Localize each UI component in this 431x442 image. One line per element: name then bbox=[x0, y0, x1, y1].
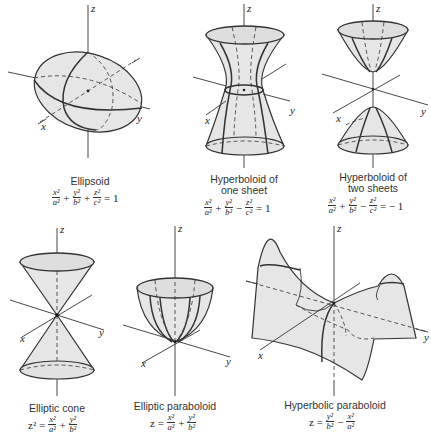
hyperboloid-one-sheet-diagram: z x y bbox=[193, 2, 295, 168]
svg-text:z: z bbox=[375, 2, 381, 14]
svg-text:x: x bbox=[257, 349, 263, 361]
svg-text:z: z bbox=[246, 2, 252, 14]
svg-text:x: x bbox=[19, 332, 25, 344]
x-axis-label: x bbox=[40, 120, 46, 132]
elliptic-cone-equation: z² = x²a² + y²b² bbox=[27, 415, 77, 434]
svg-text:y: y bbox=[98, 326, 104, 338]
svg-text:z: z bbox=[59, 223, 65, 235]
z-axis-label: z bbox=[90, 2, 96, 14]
svg-text:y: y bbox=[289, 104, 295, 116]
svg-text:x: x bbox=[335, 112, 341, 124]
svg-text:y: y bbox=[423, 331, 429, 343]
elliptic-paraboloid-diagram: z x y bbox=[123, 222, 231, 396]
svg-text:x: x bbox=[140, 357, 146, 369]
elliptic-cone-diagram: z x y bbox=[10, 223, 104, 396]
elliptic-paraboloid-equation: z = x²a² + y²b² bbox=[149, 413, 196, 432]
hyperboloid-one-sheet-equation: x²a² + y²b² − z²c² = 1 bbox=[204, 198, 271, 217]
hyperboloid-two-sheets-equation: x²a² + y²b² − z²c² = − 1 bbox=[328, 196, 404, 215]
svg-text:z: z bbox=[336, 222, 342, 234]
svg-text:z: z bbox=[177, 222, 183, 234]
elliptic-cone-caption: Elliptic cone bbox=[12, 403, 102, 414]
svg-text:y: y bbox=[225, 355, 231, 367]
hyperbolic-paraboloid-caption: Hyperbolic paraboloid bbox=[280, 400, 390, 411]
elliptic-paraboloid-caption: Elliptic paraboloid bbox=[125, 401, 225, 412]
ellipsoid-equation: x²a² + y²b² + z²c² = 1 bbox=[52, 188, 119, 207]
hyperboloid-two-sheets-caption: Hyperboloid of two sheets bbox=[323, 172, 423, 194]
y-axis-label: y bbox=[136, 112, 142, 124]
hyperboloid-two-sheets-diagram: z x y bbox=[322, 2, 428, 168]
quadric-surfaces-figure: z x y z x y bbox=[0, 0, 431, 442]
svg-text:y: y bbox=[420, 105, 426, 117]
hyperbolic-paraboloid-diagram: z x y bbox=[246, 222, 429, 396]
svg-text:x: x bbox=[204, 114, 210, 126]
ellipsoid-diagram: z x y bbox=[8, 2, 152, 158]
hyperbolic-paraboloid-equation: z = y²b² − x²a² bbox=[308, 412, 355, 431]
ellipsoid-caption: Ellipsoid bbox=[40, 176, 140, 187]
hyperboloid-one-sheet-caption: Hyperboloid of one sheet bbox=[194, 174, 294, 196]
